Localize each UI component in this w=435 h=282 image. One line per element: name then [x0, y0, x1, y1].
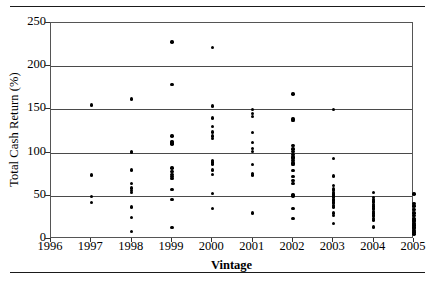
scatter-point — [332, 222, 335, 225]
scatter-point — [332, 205, 335, 208]
scatter-point — [291, 163, 294, 166]
scatter-point — [170, 142, 173, 145]
gridline — [51, 196, 412, 197]
scatter-point — [251, 211, 254, 214]
scatter-point — [130, 151, 133, 154]
scatter-point — [211, 173, 214, 176]
scatter-point — [170, 188, 173, 191]
scatter-point — [170, 226, 173, 229]
x-axis-tick-mark — [131, 238, 132, 242]
scatter-point — [130, 216, 133, 219]
scatter-point — [170, 177, 173, 180]
scatter-point — [90, 173, 93, 176]
scatter-point — [291, 217, 294, 220]
scatter-point — [412, 232, 415, 235]
y-axis-tick-label: 150 — [6, 101, 46, 114]
scatter-point — [90, 201, 93, 204]
chart-container: Total Cash Return (%) 050100150200250 19… — [0, 0, 435, 282]
scatter-point — [291, 207, 294, 210]
scatter-point — [291, 169, 294, 172]
y-axis-tick-label: 100 — [6, 145, 46, 158]
scatter-point — [130, 168, 133, 171]
scatter-point — [211, 104, 214, 107]
scatter-point — [412, 192, 415, 195]
scatter-point — [170, 83, 173, 86]
scatter-point — [211, 207, 214, 210]
scatter-point — [291, 175, 294, 178]
x-axis-tick-mark — [332, 238, 333, 242]
scatter-point — [332, 108, 335, 111]
scatter-point — [372, 191, 375, 194]
scatter-point — [130, 182, 133, 185]
scatter-point — [332, 174, 335, 177]
x-axis-tick-mark — [292, 238, 293, 242]
y-axis-title: Total Cash Return (%) — [7, 22, 22, 238]
x-axis-tick-mark — [90, 238, 91, 242]
plot-area — [50, 22, 413, 238]
scatter-point — [291, 182, 294, 185]
scatter-point — [332, 214, 335, 217]
scatter-point — [211, 168, 214, 171]
x-axis-tick-mark — [413, 238, 414, 242]
scatter-point — [251, 163, 254, 166]
scatter-point — [211, 137, 214, 140]
y-axis-tick-label: 250 — [6, 15, 46, 28]
scatter-point — [251, 108, 254, 111]
scatter-point — [170, 40, 173, 43]
scatter-point — [211, 116, 214, 119]
gridline — [51, 109, 412, 110]
x-axis-tick-mark — [50, 238, 51, 242]
scatter-point — [291, 92, 294, 95]
y-axis-tick-label: 50 — [6, 188, 46, 201]
figure: Total Cash Return (%) 050100150200250 19… — [0, 0, 435, 282]
scatter-point — [372, 218, 375, 221]
scatter-point — [211, 192, 214, 195]
scatter-point — [130, 97, 133, 100]
scatter-point — [372, 225, 375, 228]
scatter-point — [251, 141, 254, 144]
scatter-point — [90, 103, 93, 106]
scatter-point — [211, 125, 214, 128]
x-axis-tick-mark — [211, 238, 212, 242]
y-axis-tick-label: 200 — [6, 58, 46, 71]
scatter-point — [251, 173, 254, 176]
scatter-point — [211, 46, 214, 49]
scatter-point — [130, 230, 133, 233]
scatter-point — [90, 195, 93, 198]
scatter-point — [291, 194, 294, 197]
scatter-point — [170, 198, 173, 201]
scatter-point — [332, 157, 335, 160]
scatter-point — [291, 119, 294, 122]
scatter-point — [211, 162, 214, 165]
scatter-point — [170, 134, 173, 137]
scatter-point — [251, 131, 254, 134]
scatter-point — [130, 191, 133, 194]
gridline — [51, 66, 412, 67]
x-axis-tick-mark — [252, 238, 253, 242]
x-axis-title: Vintage — [50, 258, 413, 273]
scatter-point — [130, 205, 133, 208]
x-axis-tick-mark — [373, 238, 374, 242]
scatter-point — [211, 130, 214, 133]
gridline — [51, 153, 412, 154]
x-axis-tick-mark — [171, 238, 172, 242]
scatter-point — [251, 115, 254, 118]
